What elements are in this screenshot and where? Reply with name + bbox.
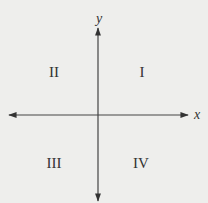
quadrant-label-ii: II — [49, 64, 59, 80]
y-axis-label: y — [94, 11, 103, 26]
quadrant-label-i: I — [140, 64, 145, 80]
quadrant-label-iv: IV — [133, 155, 149, 171]
x-axis-label: x — [193, 107, 201, 122]
quadrant-label-iii: III — [47, 155, 62, 171]
coordinate-plane: y x I II III IV — [0, 0, 208, 203]
